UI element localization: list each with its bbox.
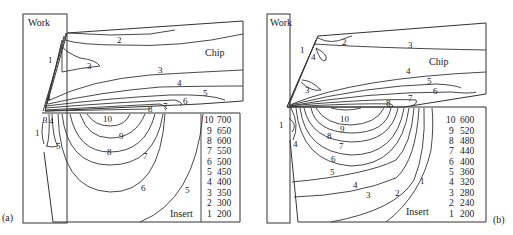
contour-line xyxy=(386,108,433,222)
contour-label: 9 xyxy=(119,131,124,141)
contour-label: 4 xyxy=(311,52,316,62)
svg-text:350: 350 xyxy=(217,188,232,198)
contour-line xyxy=(65,34,243,46)
contour-label: 4 xyxy=(46,93,51,103)
work-label: Work xyxy=(270,17,292,28)
contour-label: 10 xyxy=(103,114,113,124)
contour-label: 2 xyxy=(395,188,400,198)
contour-label: 3 xyxy=(158,65,163,75)
svg-text:320: 320 xyxy=(460,177,475,187)
svg-text:9: 9 xyxy=(449,126,454,136)
contour-line xyxy=(311,108,391,133)
svg-text:10: 10 xyxy=(446,115,456,125)
svg-text:1: 1 xyxy=(449,209,454,219)
contour-label: 8 xyxy=(107,147,112,157)
contour-label: 2 xyxy=(342,37,347,47)
svg-text:6: 6 xyxy=(449,157,454,167)
svg-text:4: 4 xyxy=(207,177,212,187)
contour-label: 5 xyxy=(203,88,208,98)
panel-label: (b) xyxy=(493,214,505,226)
contour-label: 2 xyxy=(117,35,122,45)
svg-text:450: 450 xyxy=(217,167,232,177)
svg-text:600: 600 xyxy=(460,115,475,125)
chip-label: Chip xyxy=(429,56,448,67)
contour-label: 4 xyxy=(406,66,411,76)
svg-text:300: 300 xyxy=(217,198,232,208)
svg-text:1: 1 xyxy=(207,209,212,219)
contour-line xyxy=(62,46,100,72)
svg-text:650: 650 xyxy=(217,126,232,136)
contour-label: 10 xyxy=(340,114,350,124)
contour-line xyxy=(331,108,361,110)
temperature-legend: 10700 9650 8600 7550 6500 5450 4400 3350… xyxy=(201,114,232,222)
contour-label: 7 xyxy=(163,101,168,111)
contour-label: 6 xyxy=(183,96,188,106)
svg-text:5: 5 xyxy=(207,167,212,177)
contour-label: 9 xyxy=(340,124,345,134)
contour-label: 3 xyxy=(366,190,371,200)
contour-label: 5 xyxy=(427,76,432,86)
svg-text:240: 240 xyxy=(460,198,475,208)
svg-text:3: 3 xyxy=(449,188,454,198)
svg-text:500: 500 xyxy=(217,157,232,167)
contour-line xyxy=(316,48,326,61)
contour-line xyxy=(68,30,175,35)
svg-text:400: 400 xyxy=(460,157,475,167)
svg-text:400: 400 xyxy=(217,177,232,187)
work-label: Work xyxy=(28,17,50,28)
contour-label: 8 xyxy=(148,104,153,114)
svg-text:2: 2 xyxy=(449,198,454,208)
insert-label: Insert xyxy=(170,208,193,219)
svg-text:7: 7 xyxy=(449,146,454,156)
svg-text:10: 10 xyxy=(204,115,214,125)
contour-label: 8 xyxy=(386,98,391,108)
contour-panel-a: Work Chip Insert (a) 2 1 3 3 4 5 6 7 8 4… xyxy=(0,0,256,235)
contour-label: 6 xyxy=(433,86,438,96)
svg-text:4: 4 xyxy=(449,177,454,187)
contour-line xyxy=(140,114,203,222)
svg-text:2: 2 xyxy=(207,198,212,208)
svg-text:6: 6 xyxy=(207,157,212,167)
svg-text:200: 200 xyxy=(460,209,475,219)
contour-line xyxy=(314,44,486,50)
contour-label: 3 xyxy=(87,61,92,71)
contour-panel-b: Work Chip Insert (b) 2 3 1 4 3 4 5 6 7 8… xyxy=(256,0,513,235)
contour-label: 8 xyxy=(327,131,332,141)
contour-label: 4 xyxy=(293,139,298,149)
contour-label: 5 xyxy=(330,167,335,177)
svg-text:200: 200 xyxy=(217,209,232,219)
contour-label: 1 xyxy=(279,120,284,130)
contour-label: 1 xyxy=(48,55,53,65)
contour-label: 7 xyxy=(408,93,413,103)
svg-text:700: 700 xyxy=(217,115,232,125)
svg-text:280: 280 xyxy=(460,188,475,198)
contour-label: 4 xyxy=(353,180,358,190)
contour-label: 1 xyxy=(420,176,425,186)
contour-label: 3 xyxy=(408,40,413,50)
contour-label: 6 xyxy=(141,183,146,193)
svg-text:9: 9 xyxy=(207,126,212,136)
svg-text:3: 3 xyxy=(207,188,212,198)
contour-label: 5 xyxy=(185,185,190,195)
contour-label: 3 xyxy=(43,115,48,125)
contour-label: 5 xyxy=(56,141,61,151)
svg-text:7: 7 xyxy=(207,146,212,156)
svg-text:600: 600 xyxy=(217,136,232,146)
svg-text:440: 440 xyxy=(460,146,475,156)
contour-label: 1 xyxy=(300,45,305,55)
svg-text:480: 480 xyxy=(460,136,475,146)
svg-text:550: 550 xyxy=(217,146,232,156)
panel-label: (a) xyxy=(2,212,13,224)
contour-label: 4 xyxy=(177,78,182,88)
contour-label: 3 xyxy=(305,85,310,95)
svg-text:8: 8 xyxy=(449,136,454,146)
svg-text:8: 8 xyxy=(207,136,212,146)
svg-text:520: 520 xyxy=(460,126,475,136)
contour-label: 7 xyxy=(143,151,148,161)
insert-label: Insert xyxy=(406,206,429,217)
contour-line xyxy=(301,80,321,90)
contour-line xyxy=(62,114,163,165)
contour-line xyxy=(316,108,384,125)
workpiece-outline xyxy=(267,14,290,223)
contour-label: 4 xyxy=(49,116,54,126)
